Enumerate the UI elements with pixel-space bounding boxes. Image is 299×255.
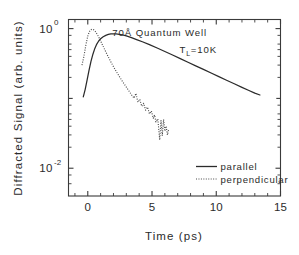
y-tick-labels: 10010-2 [39,18,61,174]
x-tick-labels: 051015 [84,201,287,213]
legend-label-perpendicular: perpendicular [221,174,289,185]
annotation-0: 70Å Quantum Well [112,27,207,38]
y-tick-exponent: 0 [54,18,59,27]
figure-container: 051015 10010-2 70Å Quantum WellTL=10K pa… [0,0,299,255]
x-axis-title: Time (ps) [145,230,203,242]
annotation-1: TL=10K [180,44,217,57]
y-tick-exponent: -2 [54,158,62,167]
y-tick-label: 10 [39,23,52,35]
x-tick-label: 15 [274,201,287,213]
chart-svg: 051015 10010-2 70Å Quantum WellTL=10K pa… [0,0,299,255]
curve-perpendicular [82,29,169,140]
x-tick-label: 0 [84,201,91,213]
data-curves [82,29,260,140]
y-tick-label: 10 [39,162,52,174]
legend: parallelperpendicular [196,161,288,185]
y-axis-title: Diffracted Signal (arb. units) [12,20,24,195]
legend-label-parallel: parallel [221,161,258,172]
plot-annotations: 70Å Quantum WellTL=10K [112,27,217,57]
x-tick-label: 5 [149,201,156,213]
x-tick-label: 10 [210,201,223,213]
curve-parallel [83,34,260,97]
